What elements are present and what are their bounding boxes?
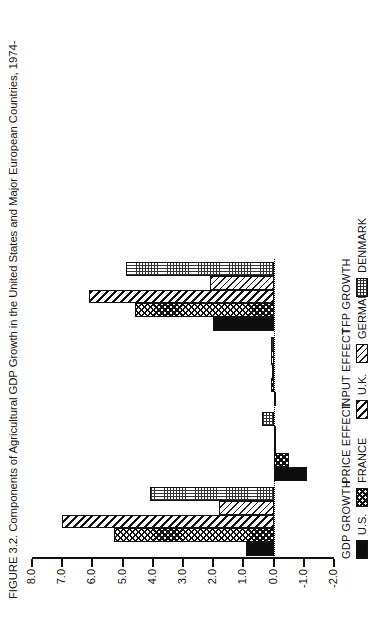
- zero-reference-line: [274, 259, 275, 559]
- category-label-input-effect: INPUT EFFECT: [340, 334, 352, 409]
- legend-item-france[interactable]: FRANCE: [356, 438, 368, 507]
- bar-denmark-input-effect: [271, 337, 274, 351]
- bar-germany-price-effect: [274, 426, 276, 440]
- axis-tick: [333, 559, 335, 567]
- axis-tick: [31, 559, 33, 567]
- axis-tick: [91, 559, 93, 567]
- axis-tick-label: 4.0: [146, 569, 158, 605]
- bar-denmark-tfp-growth: [126, 262, 274, 276]
- solid-black-swatch: [356, 540, 368, 559]
- axis-tick: [182, 559, 184, 567]
- axis-tick-label: 3.0: [176, 569, 188, 605]
- legend-item-u-k-[interactable]: U.K.: [356, 374, 368, 419]
- category-label-gdp-growth: GDP GROWTH: [340, 484, 352, 559]
- bar-uk-gdp-growth: [62, 515, 273, 529]
- legend-item-denmark[interactable]: DENMARK: [356, 218, 368, 297]
- fine-dot-grid-swatch: [356, 278, 368, 297]
- bar-uk-price-effect: [274, 440, 276, 454]
- axis-tick-label: 7.0: [55, 569, 67, 605]
- legend-label: U.S.: [356, 514, 368, 535]
- axis-tick-label: -1.0: [297, 569, 309, 605]
- bar-uk-input-effect: [272, 365, 274, 379]
- category-label-tfp-growth: TFP GROWTH: [340, 259, 352, 334]
- bar-germany-tfp-growth: [210, 276, 273, 290]
- legend-label: DENMARK: [356, 218, 368, 273]
- bar-denmark-gdp-growth: [150, 487, 274, 501]
- rotated-figure-canvas: FIGURE 3.2. Components of Agricultural G…: [0, 0, 384, 625]
- legend-item-u-s-[interactable]: U.S.: [356, 514, 368, 559]
- axis-tick-label: 0.0: [267, 569, 279, 605]
- bar-uk-tfp-growth: [89, 290, 273, 304]
- axis-tick-label: 5.0: [116, 569, 128, 605]
- figure-body: FIGURE 3.2. Components of Agricultural G…: [0, 0, 384, 625]
- axis-tick-label: 6.0: [85, 569, 97, 605]
- legend-label: U.K.: [356, 374, 368, 395]
- axis-tick: [303, 559, 305, 567]
- figure-title: FIGURE 3.2. Components of Agricultural G…: [7, 2, 19, 599]
- axis-tick-label: -2.0: [327, 569, 339, 605]
- bar-us-price-effect: [274, 467, 307, 481]
- bar-us-gdp-growth: [246, 542, 273, 556]
- bar-germany-gdp-growth: [219, 501, 273, 515]
- figure-page: 34 FIGURE 3.2. Components of Agricultura…: [0, 0, 384, 625]
- axis-tick: [242, 559, 244, 567]
- axis-tick-label: 1.0: [236, 569, 248, 605]
- diagonal-hatch-swatch: [356, 400, 368, 419]
- plot-area: 8.07.06.05.04.03.02.01.00.0-1.0-2.0: [32, 259, 334, 559]
- light-diagonal-swatch: [356, 344, 368, 363]
- axis-tick-label: 2.0: [206, 569, 218, 605]
- category-label-price-effect: PRICE EFFECT: [340, 409, 352, 484]
- chart-legend: U.S.FRANCEU.K.GERMANYDENMARK: [356, 0, 378, 559]
- bar-france-input-effect: [271, 378, 274, 392]
- axis-tick: [122, 559, 124, 567]
- axis-tick-label: 8.0: [25, 569, 37, 605]
- bar-france-tfp-growth: [135, 303, 274, 317]
- cross-hatch-swatch: [356, 488, 368, 507]
- bar-france-price-effect: [274, 453, 289, 467]
- bar-us-tfp-growth: [213, 317, 273, 331]
- axis-tick: [152, 559, 154, 567]
- axis-tick: [273, 559, 275, 567]
- bar-france-gdp-growth: [114, 528, 274, 542]
- axis-tick: [61, 559, 63, 567]
- legend-label: FRANCE: [356, 438, 368, 483]
- axis-tick: [212, 559, 214, 567]
- bar-us-input-effect: [274, 392, 276, 406]
- bar-germany-input-effect: [271, 351, 274, 365]
- bar-denmark-price-effect: [262, 412, 274, 426]
